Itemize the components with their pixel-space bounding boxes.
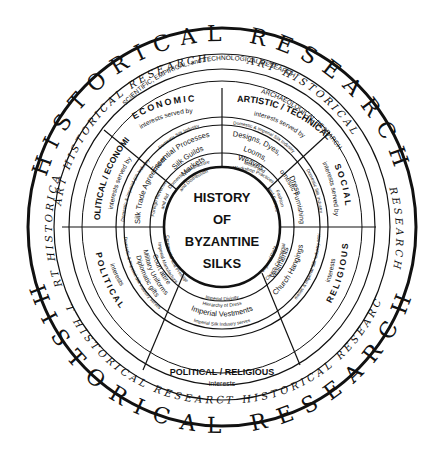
- center-title-line: OF: [213, 212, 231, 227]
- center-title-line: HISTORY: [193, 190, 250, 205]
- political-religious-served-label: Imperial Silk Industry serves: [193, 317, 251, 326]
- center-title-line: BYZANTINE: [185, 234, 260, 249]
- byzantine-silks-diagram: HISTORICAL RESEARCH HISTORICAL RESEARCH …: [0, 0, 439, 452]
- social-served-label: Domestic Silk Industry: [305, 168, 323, 214]
- center-title-line: SILKS: [203, 256, 242, 271]
- political-religious-title: POLITICAL / RELIGIOUS: [170, 367, 274, 377]
- center-title: HISTORY OF BYZANTINE SILKS: [185, 190, 260, 271]
- political-religious-subtitle: interests: [209, 380, 236, 387]
